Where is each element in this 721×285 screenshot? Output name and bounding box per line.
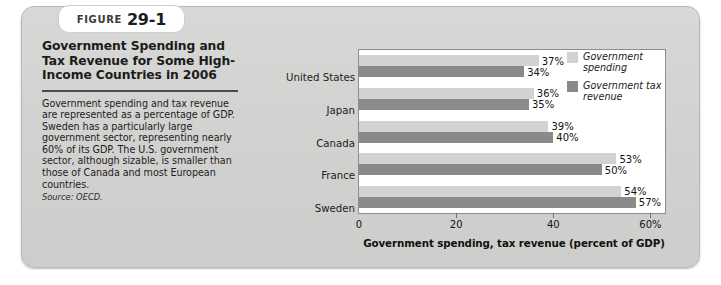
- bar-tax-revenue: [359, 66, 524, 77]
- figure-title: Government Spending and Tax Revenue for …: [42, 39, 247, 83]
- legend-label-tax-revenue: Government tax revenue: [583, 80, 687, 102]
- bar-value-label: 39%: [551, 121, 573, 132]
- bar-value-label: 50%: [605, 164, 627, 175]
- bar-value-label: 57%: [639, 197, 661, 208]
- category-label: Sweden: [315, 202, 355, 213]
- legend-item-tax-revenue: Government tax revenue: [567, 80, 687, 102]
- legend-item-spending: Government spending: [567, 51, 687, 73]
- category-label: United States: [286, 72, 355, 83]
- figure-badge-word: Figure: [77, 14, 122, 25]
- x-axis-tick: [456, 213, 457, 218]
- bar-spending: [359, 55, 539, 66]
- bar-value-label: 40%: [556, 132, 578, 143]
- bar-value-label: 54%: [624, 186, 646, 197]
- bar-spending: [359, 186, 621, 197]
- bar-value-label: 37%: [542, 55, 564, 66]
- figure-source: Source: OECD.: [42, 192, 247, 202]
- figure-description: Government spending and tax revenue are …: [42, 98, 247, 191]
- chart-area: United StatesJapanCanadaFranceSweden 37%…: [261, 37, 691, 262]
- x-axis-tick-label: 20: [450, 219, 463, 230]
- x-axis-tick-label: 40: [547, 219, 560, 230]
- category-axis-labels: United StatesJapanCanadaFranceSweden: [261, 49, 355, 214]
- x-axis-tick: [650, 213, 651, 218]
- x-axis-tick-label: 60%: [639, 219, 661, 230]
- caption-column: Government Spending and Tax Revenue for …: [42, 39, 247, 211]
- legend-label-spending: Government spending: [583, 51, 687, 73]
- title-divider: [42, 90, 238, 92]
- figure-badge-number: 29-1: [127, 10, 166, 29]
- category-label: France: [321, 170, 355, 181]
- legend-swatch-spending: [567, 52, 578, 63]
- x-axis-tick: [553, 213, 554, 218]
- bar-tax-revenue: [359, 164, 602, 175]
- bar-value-label: 35%: [532, 99, 554, 110]
- bar-value-label: 34%: [527, 66, 549, 77]
- bar-value-label: 53%: [619, 153, 641, 164]
- bar-spending: [359, 88, 534, 99]
- bar-tax-revenue: [359, 132, 553, 143]
- x-axis-title: Government spending, tax revenue (percen…: [358, 237, 670, 249]
- bar-spending: [359, 121, 548, 132]
- category-label: Japan: [327, 104, 355, 115]
- legend-swatch-tax-revenue: [567, 81, 578, 92]
- figure-badge: Figure 29-1: [58, 5, 185, 33]
- category-label: Canada: [316, 137, 355, 148]
- bar-spending: [359, 153, 616, 164]
- chart-legend: Government spending Government tax reven…: [567, 51, 687, 109]
- bar-tax-revenue: [359, 99, 529, 110]
- x-axis-tick-label: 0: [356, 219, 362, 230]
- bar-tax-revenue: [359, 197, 636, 208]
- bar-value-label: 36%: [537, 88, 559, 99]
- figure-panel: Figure 29-1 Government Spending and Tax …: [21, 6, 700, 268]
